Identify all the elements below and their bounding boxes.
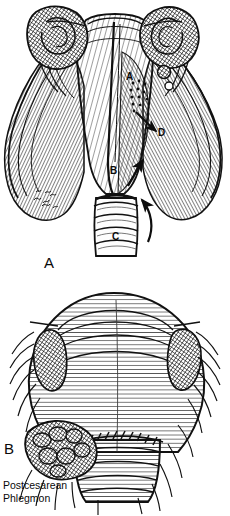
key-label-b: B (110, 166, 117, 176)
key-label-c: C (112, 232, 119, 242)
panel-label-a: A (44, 255, 54, 270)
figure-caption: Postcesarean Phlegmon (3, 479, 67, 504)
anatomical-line-drawing (0, 0, 230, 516)
illustration-canvas: A B C D A B Postcesarean Phlegmon (0, 0, 230, 516)
cervix-vagina-panel-a (94, 195, 138, 256)
panel-label-b: B (4, 441, 14, 456)
key-label-d: D (158, 128, 165, 138)
phlegmon-mass (25, 421, 97, 480)
panel-a-drawing (5, 7, 222, 256)
key-label-a: A (126, 72, 133, 82)
arrow-c-upward (142, 200, 151, 242)
